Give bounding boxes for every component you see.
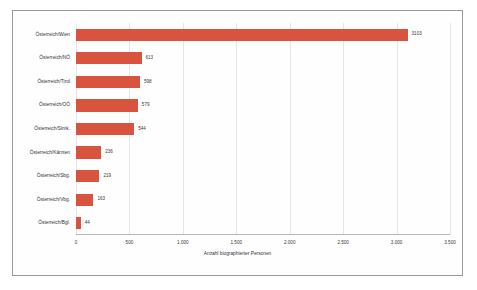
bar[interactable]	[76, 217, 81, 229]
bar[interactable]	[76, 146, 101, 158]
bar-value-label: 3103	[412, 32, 422, 37]
gridline	[450, 23, 451, 235]
bar-value-label: 236	[105, 150, 113, 155]
bar[interactable]	[76, 194, 93, 206]
bar[interactable]	[76, 170, 99, 182]
bar-row: Österreich/OÖ579	[76, 99, 450, 111]
bar-value-label: 163	[97, 197, 105, 202]
bar-value-label: 44	[85, 221, 90, 226]
x-axis-line	[76, 234, 450, 235]
x-tick-label: 0	[75, 241, 78, 246]
bar-value-label: 544	[138, 127, 146, 132]
bar[interactable]	[76, 52, 142, 64]
x-tick-label: 1.000	[177, 241, 189, 246]
x-tick-label: 2.000	[284, 241, 296, 246]
category-label: Österreich/Kärnten	[30, 150, 70, 155]
category-label: Österreich/Wien	[36, 32, 70, 37]
x-tick-label: 1.500	[231, 241, 243, 246]
category-label: Österreich/OÖ	[39, 103, 70, 108]
category-label: Österreich/Sbg.	[37, 174, 70, 179]
category-label: Österreich/Tirol	[37, 79, 70, 84]
bar[interactable]	[76, 29, 408, 41]
category-label: Österreich/Bgl.	[38, 221, 70, 226]
bar-row: Österreich/Stmk.544	[76, 123, 450, 135]
chart-figure: Österreich/Wien3103Österreich/NÖ613Öster…	[12, 10, 463, 276]
plot-area: Österreich/Wien3103Österreich/NÖ613Öster…	[76, 23, 450, 235]
bar[interactable]	[76, 76, 140, 88]
bar-series: Österreich/Wien3103Österreich/NÖ613Öster…	[76, 23, 450, 235]
x-tick-label: 500	[126, 241, 134, 246]
bar-row: Österreich/Tirol598	[76, 76, 450, 88]
bar-row: Österreich/Sbg.219	[76, 170, 450, 182]
bar-row: Österreich/Vbg.163	[76, 194, 450, 206]
bar-row: Österreich/Bgl.44	[76, 217, 450, 229]
x-axis-label: Anzahl biographierter Personen	[13, 252, 462, 257]
bar-row: Österreich/NÖ613	[76, 52, 450, 64]
bar[interactable]	[76, 123, 134, 135]
bar-value-label: 219	[103, 174, 111, 179]
bar-row: Österreich/Wien3103	[76, 29, 450, 41]
bar[interactable]	[76, 99, 138, 111]
bar-value-label: 613	[146, 56, 154, 61]
bar-value-label: 579	[142, 103, 150, 108]
category-label: Österreich/Vbg.	[37, 197, 70, 202]
x-tick-label: 3.500	[444, 241, 456, 246]
category-label: Österreich/Stmk.	[34, 127, 70, 132]
bar-value-label: 598	[144, 80, 152, 85]
x-tick-label: 3.000	[391, 241, 403, 246]
bar-row: Österreich/Kärnten236	[76, 146, 450, 158]
x-tick-label: 2.500	[337, 241, 349, 246]
category-label: Österreich/NÖ	[39, 56, 70, 61]
